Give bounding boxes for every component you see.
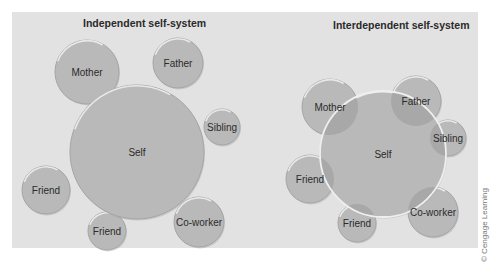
interdependent-self-system: SelfMotherFatherSiblingFriendFriendCo-wo… <box>286 76 467 244</box>
self-system-diagram: SelfMotherFatherSiblingFriendFriendCo-wo… <box>0 0 500 274</box>
label-co-worker: Co-worker <box>176 217 223 228</box>
label-co-worker: Co-worker <box>410 207 457 218</box>
label-friend: Friend <box>296 174 324 185</box>
copyright-credit: © Cengage Learning <box>480 188 489 262</box>
label-mother: Mother <box>314 102 346 113</box>
label-father: Father <box>402 96 432 107</box>
label-friend: Friend <box>93 226 121 237</box>
label-friend: Friend <box>343 218 371 229</box>
label-self: Self <box>374 149 391 160</box>
label-father: Father <box>164 58 194 69</box>
label-sibling: Sibling <box>433 133 463 144</box>
label-self: Self <box>128 147 145 158</box>
independent-self-system: SelfMotherFatherSiblingFriendFriendCo-wo… <box>22 38 241 252</box>
label-sibling: Sibling <box>207 122 237 133</box>
label-mother: Mother <box>71 67 103 78</box>
label-friend: Friend <box>32 185 60 196</box>
